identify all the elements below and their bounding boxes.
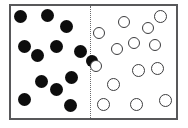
filled-particle-1 [41, 9, 54, 22]
open-particle-4 [128, 37, 140, 49]
open-particle-8 [107, 78, 120, 91]
filled-particle-11 [64, 99, 77, 112]
open-particle-13 [142, 22, 154, 34]
particle-diffusion-figure [0, 0, 188, 128]
filled-particle-7 [35, 75, 48, 88]
open-particle-5 [149, 39, 161, 51]
open-particle-6 [132, 64, 145, 77]
open-particle-9 [97, 98, 110, 111]
open-particle-10 [130, 98, 143, 111]
filled-particle-4 [50, 40, 63, 53]
filled-particle-10 [18, 93, 31, 106]
filled-particle-8 [65, 71, 78, 84]
open-particle-3 [111, 43, 123, 55]
filled-particle-0 [14, 10, 27, 23]
filled-particle-5 [31, 49, 44, 62]
filled-particle-3 [18, 40, 31, 53]
open-particle-1 [118, 16, 130, 28]
filled-particle-9 [50, 83, 63, 96]
open-particle-12 [90, 60, 102, 72]
open-particle-0 [93, 27, 105, 39]
open-particle-7 [151, 62, 164, 75]
filled-particle-2 [60, 20, 73, 33]
open-particle-2 [154, 10, 167, 23]
open-particle-11 [159, 94, 172, 107]
filled-particle-6 [74, 45, 87, 58]
